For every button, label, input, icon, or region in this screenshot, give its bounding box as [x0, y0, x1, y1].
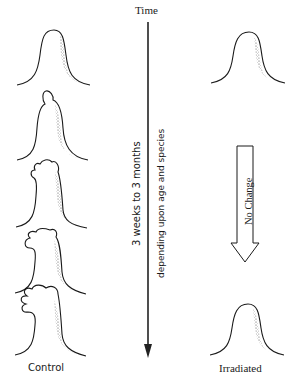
control-stage-5: [15, 285, 86, 356]
regeneration-diagram: Time 3 weeks to 3 months depending upon …: [0, 0, 300, 382]
duration-label: 3 weeks to 3 months: [131, 141, 142, 246]
diagram-canvas: [0, 0, 300, 382]
time-axis: [144, 22, 152, 358]
no-change-label: No Change: [243, 177, 254, 225]
irradiated-column-label: Irradiated: [219, 362, 262, 374]
irradiated-stage-1: [211, 32, 285, 83]
time-axis-label: Time: [135, 4, 158, 16]
control-stage-3: [16, 160, 87, 228]
irradiated-stage-2: [210, 304, 284, 355]
control-column-label: Control: [28, 362, 64, 373]
control-stage-2: [17, 91, 88, 160]
time-arrowhead-icon: [144, 344, 152, 358]
control-stage-4: [15, 229, 86, 294]
control-stage-1: [17, 30, 90, 85]
dependency-label: depending upon age and species: [156, 129, 166, 278]
